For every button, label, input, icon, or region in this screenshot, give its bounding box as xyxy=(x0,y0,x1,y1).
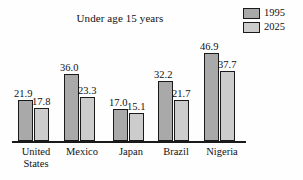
category-label-line: United xyxy=(12,146,60,158)
category-label-japan: Japan xyxy=(107,146,155,158)
bar-value-label: 17.8 xyxy=(32,97,50,108)
legend-swatch-1995 xyxy=(243,8,260,19)
bar-value-label: 46.9 xyxy=(200,42,218,53)
chart-figure: Under age 15 years 1995 2025 21.917.836.… xyxy=(0,0,303,180)
bar-1995-japan xyxy=(113,109,128,141)
bar-1995-brazil xyxy=(158,81,173,141)
bar-2025-nigeria xyxy=(220,71,235,141)
bar-value-label: 21.9 xyxy=(14,89,32,100)
chart-legend: 1995 2025 xyxy=(243,8,301,36)
category-label-mexico: Mexico xyxy=(58,146,106,158)
category-label-line: Nigeria xyxy=(198,146,246,158)
bar-2025-japan xyxy=(129,113,144,141)
bar-2025-brazil xyxy=(174,100,189,141)
chart-title: Under age 15 years xyxy=(0,12,240,24)
bar-value-label: 23.3 xyxy=(78,86,96,97)
legend-label-2025: 2025 xyxy=(264,22,285,33)
legend-item-1995: 1995 xyxy=(243,8,301,19)
bar-1995-mexico xyxy=(64,74,79,141)
bar-value-label: 32.2 xyxy=(154,70,172,81)
bar-2025-united-states xyxy=(34,108,49,141)
category-axis-labels: UnitedStatesMexicoJapanBrazilNigeria xyxy=(12,146,246,178)
bar-value-label: 15.1 xyxy=(127,102,145,113)
category-label-line: Brazil xyxy=(152,146,200,158)
bar-value-label: 17.0 xyxy=(109,98,127,109)
legend-item-2025: 2025 xyxy=(243,22,301,33)
category-label-brazil: Brazil xyxy=(152,146,200,158)
category-label-line: States xyxy=(12,158,60,170)
bar-value-label: 36.0 xyxy=(60,63,78,74)
bar-2025-mexico xyxy=(80,97,95,141)
category-label-united-states: UnitedStates xyxy=(12,146,60,170)
bar-1995-nigeria xyxy=(204,53,219,141)
bar-1995-united-states xyxy=(18,100,33,141)
x-axis-line xyxy=(12,141,246,143)
legend-label-1995: 1995 xyxy=(264,8,285,19)
plot-area: 21.917.836.023.317.015.132.221.746.937.7 xyxy=(12,26,246,143)
category-label-nigeria: Nigeria xyxy=(198,146,246,158)
category-label-line: Mexico xyxy=(58,146,106,158)
category-label-line: Japan xyxy=(107,146,155,158)
bar-value-label: 37.7 xyxy=(218,60,236,71)
bar-value-label: 21.7 xyxy=(172,89,190,100)
